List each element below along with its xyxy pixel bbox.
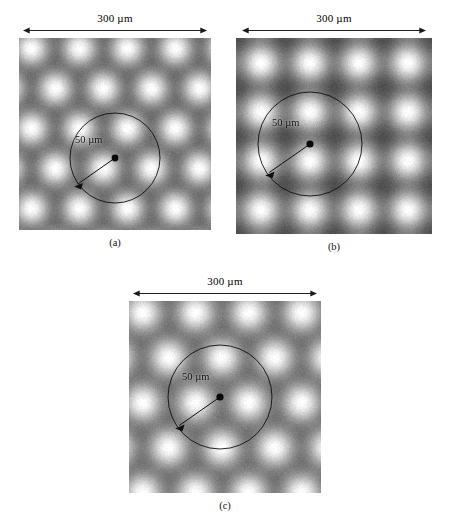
- scale-bar-label-c: 300 µm: [124, 275, 326, 287]
- panel-a: 300 µm 50 µm (a): [14, 14, 216, 248]
- panel-caption-a: (a): [14, 237, 216, 248]
- lattice-image-a: 50 µm: [19, 38, 211, 230]
- panel-caption-c: (c): [124, 500, 326, 511]
- panel-caption-b: (b): [233, 241, 435, 252]
- panel-b: 300 µm 50 µm (b): [233, 14, 435, 252]
- scale-bar-arrow-a: [23, 26, 207, 35]
- radius-label-a: 50 µm: [75, 134, 102, 145]
- scale-bar-arrow-c: [133, 289, 317, 298]
- panel-c: 300 µm 50 µm (c): [124, 277, 326, 511]
- scale-bar-c: 300 µm: [124, 277, 326, 301]
- scale-bar-label-b: 300 µm: [233, 12, 435, 24]
- scale-bar-arrow-b: [242, 26, 426, 35]
- lattice-figure: 300 µm 50 µm (a): [0, 0, 449, 514]
- lattice-image-c: 50 µm: [129, 301, 321, 493]
- radius-label-b: 50 µm: [272, 117, 299, 128]
- scale-bar-b: 300 µm: [233, 14, 435, 38]
- lattice-canvas-a: [19, 38, 211, 230]
- radius-label-c: 50 µm: [182, 371, 209, 382]
- scale-bar-label-a: 300 µm: [14, 12, 216, 24]
- lattice-canvas-c: [129, 301, 321, 493]
- lattice-image-b: 50 µm: [236, 38, 432, 234]
- scale-bar-a: 300 µm: [14, 14, 216, 38]
- lattice-canvas-b: [236, 38, 432, 234]
